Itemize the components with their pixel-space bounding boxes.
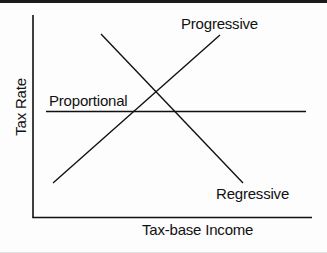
progressive-label: Progressive	[181, 16, 258, 31]
y-axis-label: Tax Rate	[13, 78, 28, 136]
proportional-label: Proportional	[49, 93, 127, 108]
progressive-line	[53, 35, 220, 183]
x-axis-label: Tax-base Income	[142, 222, 253, 237]
figure-frame: Progressive Proportional Regressive Tax-…	[0, 0, 327, 253]
regressive-label: Regressive	[216, 186, 289, 201]
tax-rate-chart	[0, 0, 327, 253]
